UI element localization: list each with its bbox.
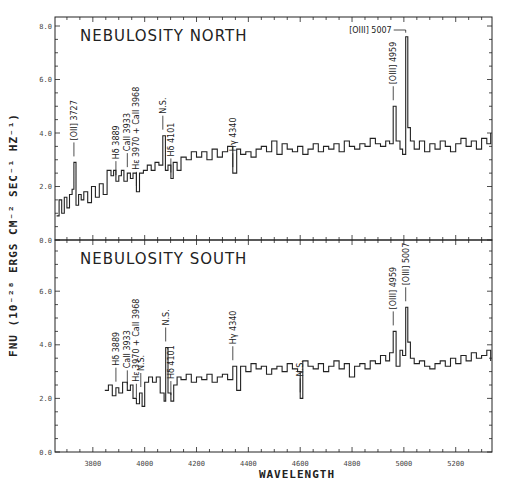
panel-title: NEBULOSITY NORTH xyxy=(80,27,247,45)
y-tick-label: 0.0 xyxy=(39,237,52,245)
line-annotation: N.S. xyxy=(162,309,171,325)
line-annotation: Hδ 3889 xyxy=(112,332,121,366)
line-annotation: Hγ 4340 xyxy=(229,117,238,151)
spectrum-trace xyxy=(57,37,491,216)
line-annotation: [OIII] 5007 xyxy=(349,26,392,35)
y-axis-label: FNU (10⁻²⁸ ERGS CM⁻² SEC⁻¹ HZ⁻¹) xyxy=(7,113,20,357)
line-annotation: Hδ 4101 xyxy=(167,345,176,379)
y-tick-label: 6.0 xyxy=(39,288,52,296)
x-tick-label: 4000 xyxy=(136,460,153,468)
spectrum-chart: 0.02.04.06.08.0NEBULOSITY NORTH[OII] 372… xyxy=(0,0,508,498)
line-annotation: [OIII] 4959 xyxy=(389,42,398,85)
y-tick-label: 6.0 xyxy=(39,76,52,84)
line-annotation: [OIII] 5007 xyxy=(402,243,411,286)
line-annotation: N.S. xyxy=(137,355,146,371)
x-tick-label: 4400 xyxy=(240,460,257,468)
x-tick-label: 4200 xyxy=(188,460,205,468)
line-annotation: N.S. xyxy=(159,98,168,114)
line-annotation: [OIII] 4959 xyxy=(389,267,398,310)
line-annotation: N.S. xyxy=(296,360,305,376)
line-annotation: Hγ 4340 xyxy=(229,311,238,345)
y-tick-label: 8.0 xyxy=(39,23,52,31)
x-axis-label: WAVELENGTH xyxy=(259,468,335,481)
line-annotation: [OII] 3727 xyxy=(70,100,79,140)
x-tick-label: 4600 xyxy=(292,460,309,468)
y-tick-label: 0.0 xyxy=(39,449,52,457)
y-tick-label: 2.0 xyxy=(39,395,52,403)
x-tick-label: 3800 xyxy=(84,460,101,468)
line-annotation: CaII 3933 xyxy=(123,113,132,151)
y-tick-label: 4.0 xyxy=(39,341,52,349)
x-tick-label: 5200 xyxy=(447,460,464,468)
panel-north: 0.02.04.06.08.0NEBULOSITY NORTH[OII] 372… xyxy=(39,17,492,245)
line-annotation: Hδ 3889 xyxy=(112,125,121,159)
y-tick-label: 4.0 xyxy=(39,130,52,138)
x-tick-label: 4800 xyxy=(344,460,361,468)
panel-title: NEBULOSITY SOUTH xyxy=(80,250,247,268)
panel-south: 0.02.04.06.0NEBULOSITY SOUTHHδ 3889CaII … xyxy=(39,240,492,468)
line-annotation: Hε 3970 + CaII 3968 xyxy=(132,87,141,170)
line-annotation: Hδ 4101 xyxy=(167,123,176,157)
line-annotation: CaII 3933 xyxy=(123,330,132,368)
y-tick-label: 2.0 xyxy=(39,183,52,191)
x-tick-label: 5000 xyxy=(395,460,412,468)
